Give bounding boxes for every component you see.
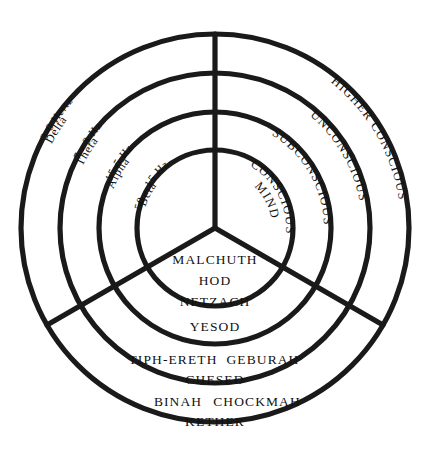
sephira-chockmah: CHOCKMAH [213, 394, 301, 409]
brainwave-beta-frequency: 50 - 15 Hz [132, 158, 171, 211]
sephira-chesed: CHESED [185, 372, 244, 387]
consciousness-wheel-diagram: Delta 3-0 Hertz Theta 7 - 3 Hz Alpha 15-… [0, 0, 432, 453]
sephira-kether: KETHER [185, 414, 245, 429]
sephira-malchuth: MALCHUTH [172, 252, 257, 267]
sephira-hod: HOD [199, 273, 232, 288]
consciousness-conscious: CONSCIOUS [248, 157, 297, 235]
sephira-geburah: GEBURAH [227, 352, 300, 367]
sephira-tiphereth: TIPH-ERETH [129, 352, 218, 367]
sephira-yesod: YESOD [190, 319, 241, 334]
wheel-svg: Delta 3-0 Hertz Theta 7 - 3 Hz Alpha 15-… [0, 0, 432, 453]
sephira-binah: BINAH [154, 394, 202, 409]
sephira-netzach: NETZACH [180, 294, 251, 309]
